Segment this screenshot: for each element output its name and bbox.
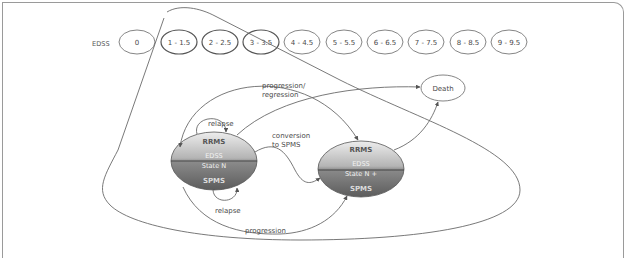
edss-scale-label: EDSS: [92, 40, 110, 48]
next-state-rrms-label: RRMS: [350, 146, 373, 154]
edss-level-9: 9 - 9.5: [491, 30, 527, 54]
svg-text:9 - 9.5: 9 - 9.5: [498, 39, 521, 47]
conversion-to-spms-arrow: [255, 147, 320, 183]
progression-label: progression: [245, 227, 286, 235]
next-state-ellipse: RRMS EDSS State N + SPMS: [318, 141, 404, 197]
svg-text:Death: Death: [432, 85, 453, 93]
current-state-edss-label: EDSS: [205, 152, 223, 160]
next-state-spms-label: SPMS: [350, 185, 372, 193]
progression-regression-label-2: regression: [262, 91, 298, 99]
next-state-n-plus-label: State N +: [345, 170, 377, 178]
svg-text:2 - 2.5: 2 - 2.5: [209, 39, 232, 47]
current-state-ellipse: RRMS EDSS State N SPMS: [171, 132, 257, 190]
current-state-spms-label: SPMS: [203, 177, 225, 185]
svg-text:8 - 8.5: 8 - 8.5: [457, 39, 480, 47]
edss-level-0: 0: [119, 30, 155, 54]
edss-level-1: 1 - 1.5: [161, 30, 197, 54]
svg-text:0: 0: [135, 39, 139, 47]
edss-level-5: 5 - 5.5: [326, 30, 362, 54]
relapse-bottom-label: relapse: [215, 207, 241, 215]
edss-level-8: 8 - 8.5: [450, 30, 486, 54]
svg-text:6 - 6.5: 6 - 6.5: [374, 39, 397, 47]
edss-level-4: 4 - 4.5: [284, 30, 320, 54]
next-to-death-arrow: [394, 102, 438, 150]
current-state-n-label: State N: [202, 162, 227, 170]
svg-text:1 - 1.5: 1 - 1.5: [168, 39, 191, 47]
progression-regression-label-1: progression/: [262, 82, 306, 90]
conversion-label-1: conversion: [272, 132, 310, 140]
edss-level-6: 6 - 6.5: [367, 30, 403, 54]
conversion-label-2: to SPMS: [272, 141, 301, 149]
svg-text:4 - 4.5: 4 - 4.5: [291, 39, 314, 47]
current-state-rrms-label: RRMS: [203, 138, 226, 146]
next-state-edss-label: EDSS: [352, 160, 370, 168]
svg-text:7 - 7.5: 7 - 7.5: [415, 39, 438, 47]
relapse-top-label: relapse: [208, 120, 234, 128]
svg-text:5 - 5.5: 5 - 5.5: [333, 39, 356, 47]
edss-level-2: 2 - 2.5: [202, 30, 238, 54]
death-state: Death: [421, 75, 465, 101]
edss-level-7: 7 - 7.5: [408, 30, 444, 54]
